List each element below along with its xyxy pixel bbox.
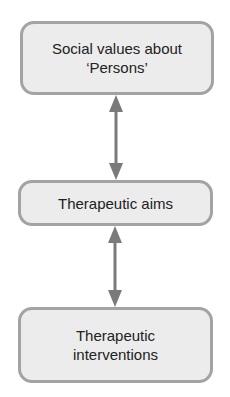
- node-label: Social values about ‘Persons’: [52, 39, 182, 77]
- node-therapeutic-interventions: Therapeutic interventions: [18, 307, 213, 383]
- bidirectional-arrow-icon: [109, 95, 123, 180]
- bidirectional-arrow-icon: [108, 226, 122, 307]
- node-label: Therapeutic aims: [58, 194, 173, 213]
- node-social-values: Social values about ‘Persons’: [20, 21, 214, 95]
- node-label: Therapeutic interventions: [73, 326, 158, 364]
- node-therapeutic-aims: Therapeutic aims: [18, 180, 213, 226]
